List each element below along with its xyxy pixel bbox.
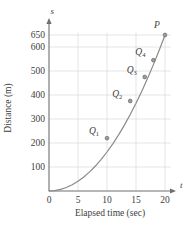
graph-figure: st10020030040050060065005101520Q1Q2Q3Q4P… <box>0 0 190 238</box>
x-axis-variable-label: t <box>180 180 183 190</box>
x-tick-label: 10 <box>102 195 112 205</box>
point-label-q3: Q3 <box>127 65 137 76</box>
data-point-p <box>163 33 167 37</box>
y-tick-label: 200 <box>31 138 46 148</box>
data-point-q2 <box>128 99 132 103</box>
x-axis-arrow-icon <box>170 188 176 193</box>
y-tick-label: 650 <box>31 30 46 40</box>
x-tick-label: 5 <box>76 195 81 205</box>
y-tick-label: 400 <box>31 90 46 100</box>
point-label-q2: Q2 <box>112 89 122 100</box>
data-point-q1 <box>105 136 109 140</box>
y-tick-label: 100 <box>31 162 46 172</box>
y-axis-arrow-icon <box>46 18 51 24</box>
x-tick-label: 15 <box>131 195 141 205</box>
x-tick-label: 20 <box>160 195 170 205</box>
x-axis-title: Elapsed time (sec) <box>75 208 145 219</box>
point-label-q4: Q4 <box>135 47 146 58</box>
data-point-q3 <box>143 75 147 79</box>
distance-time-plot: st10020030040050060065005101520Q1Q2Q3Q4P… <box>0 0 190 238</box>
y-tick-label: 500 <box>31 66 46 76</box>
y-tick-label: 300 <box>31 114 46 124</box>
y-axis-variable-label: s <box>51 6 55 16</box>
y-axis-title: Distance (m) <box>3 83 14 132</box>
data-point-q4 <box>152 58 156 62</box>
y-tick-label: 600 <box>31 42 46 52</box>
x-tick-label: 0 <box>47 195 52 205</box>
point-label-q1: Q1 <box>89 126 99 137</box>
point-label-p: P <box>153 20 160 30</box>
